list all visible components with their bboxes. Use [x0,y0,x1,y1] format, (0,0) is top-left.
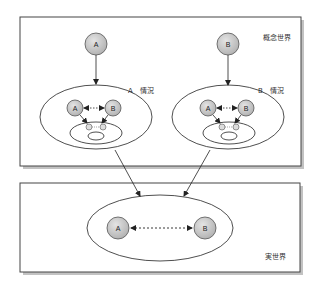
node-label: B [244,105,249,112]
top-node-a: A [85,33,107,55]
node-label: B [226,41,231,48]
situation-a-node-b: B [105,100,121,116]
real-node-b: B [194,217,216,239]
node-label: A [94,41,99,48]
situation-a-label: A 情況 [128,86,154,95]
real-world-label: 実世界 [265,252,286,261]
node-label: A [73,105,78,112]
situation-b-node-b: B [238,100,254,116]
node-label: A [116,225,121,232]
diagram-canvas: A B 概念世界 A 情況 A B B 情況 A [0,0,321,293]
node-label: B [203,225,208,232]
real-node-a: A [107,217,129,239]
node-label: A [206,105,211,112]
situation-a-node-a: A [67,100,83,116]
top-node-b: B [217,33,239,55]
concept-world-label: 概念世界 [263,33,291,42]
situation-b-label: B 情況 [258,86,284,95]
situation-b-node-a: A [200,100,216,116]
node-label: B [111,105,116,112]
